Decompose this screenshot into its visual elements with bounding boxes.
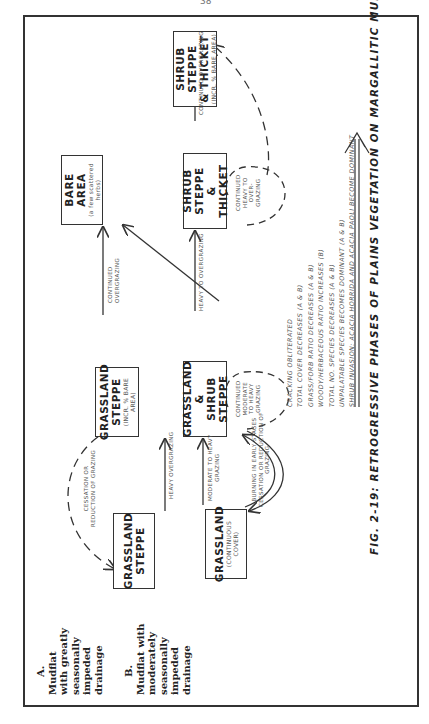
note-item: SHRUB INVASION: ACACIA HORRIDA AND ACACI…	[347, 135, 357, 407]
label-continued-moderate-heavy: CONTINUED MODERATE TO HEAVY GRAZING	[235, 380, 261, 417]
note-item: TOTAL NO. SPECIES DECREASES (A & B)	[327, 135, 337, 407]
row-label-a: A. Mudflat with greatly seasonally imped…	[35, 628, 104, 695]
node-a3-bare-area: BARE AREA (a few scattered herbs)	[61, 155, 103, 225]
note-item: CRACKING OBLITERATED	[285, 135, 295, 407]
label-cessation-a: CESSATION OR REDUCTION OF GRAZING	[83, 450, 96, 527]
diagram-canvas: A. Mudflat with greatly seasonally imped…	[23, 15, 419, 707]
label-continued-heavy-over: CONTINUED HEAVY TO OVER- GRAZING	[235, 174, 261, 211]
node-a1-grassland-steppe: GRASSLAND STEPPE	[113, 513, 155, 589]
row-label-b: B. Mudflat with moderately seasonally im…	[123, 624, 192, 695]
label-burning-cessation: BURNING IN EARLY STAGES CESSATION OR RED…	[251, 412, 271, 507]
note-item: GRASS/FORB RATIO DECREASES (A & B)	[306, 135, 316, 407]
node-b4-shrub-steppe-thicket-bare: SHRUB STEPPE & THICKET (INCR. % BARE ARE…	[173, 31, 217, 107]
note-item: TOTAL COVER DECREASES (A & B)	[295, 135, 305, 407]
trend-notes: CRACKING OBLITERATED TOTAL COVER DECREAS…	[285, 135, 358, 407]
page-number: 38	[200, 0, 211, 6]
node-a2-grassland-steppe-bare: GRASSLAND STEPPE (INCR. % BARE AREA)	[95, 367, 139, 437]
node-b2-grassland-shrub-steppe: GRASSLAND & SHRUB STEPPE	[183, 361, 227, 437]
arrow-b2-a3	[123, 225, 219, 301]
label-moderate-heavy-grazing: MODERATE TO HEAVY GRAZING	[207, 434, 220, 501]
note-item: UNPALATABLE SPECIES BECOMES DOMINANT (A …	[337, 135, 347, 407]
label-heavy-overgrazing: HEAVY OVERGRAZING	[168, 432, 175, 499]
note-item: WOODY/HERBACEOUS RATIO INCREASES (B)	[316, 135, 326, 407]
label-continued-overgrazing-b: CONTINUED OVERGRAZING	[198, 31, 205, 115]
label-continued-overgrazing-a: CONTINUED OVERGRAZING	[107, 258, 120, 303]
node-b3-shrub-steppe-thicket: SHRUB STEPPE & THICKET	[183, 153, 227, 229]
node-b1-grassland: GRASSLAND (CONTINUOUS COVER)	[205, 509, 247, 579]
figure-caption: FIG. 2-19: RETROGRESSIVE PHASES OF PLAIN…	[368, 0, 380, 555]
label-heavy-to-overgrazing: HEAVY TO OVERGRAZING	[198, 233, 205, 311]
